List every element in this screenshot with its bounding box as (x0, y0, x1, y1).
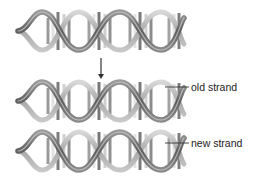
dna-replication-diagram: old strand new strand (0, 0, 254, 181)
new-strand-label: new strand (191, 137, 242, 149)
replication-arrow (98, 58, 104, 79)
old-strand-label: old strand (191, 81, 237, 93)
daughter-helix-new (18, 132, 184, 170)
daughter-helix-old (18, 82, 184, 120)
parent-helix (18, 12, 184, 50)
